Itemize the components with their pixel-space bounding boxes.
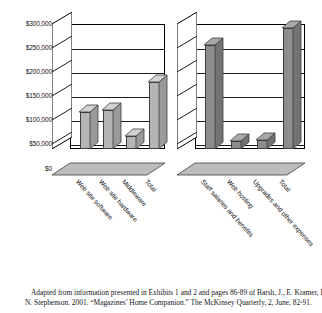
y-tick-100000: $100,000 — [26, 116, 52, 123]
x-axis-labels-left: Web site software Web site hardware Midd… — [70, 176, 180, 281]
depth-wall-right — [177, 12, 197, 162]
y-tick-200000: $200,000 — [26, 68, 52, 75]
bar-3d-faces — [241, 130, 249, 149]
depth-wall-left — [52, 12, 72, 162]
y-tick-300000: $300,000 — [26, 20, 52, 27]
bar-3d-faces — [215, 34, 223, 149]
chart-area: $300,000 $250,000 $200,000 $150,000 $100… — [0, 0, 322, 285]
x-label-total-left: Total — [144, 178, 158, 193]
plot-floor-right — [177, 148, 305, 176]
chart-panel-left — [70, 24, 165, 176]
bar-total-right — [283, 28, 294, 149]
bar-web-hosting — [231, 141, 242, 149]
bars-right — [195, 24, 305, 149]
bar-middleware — [126, 136, 137, 149]
y-tick-0: $0 — [45, 165, 52, 172]
bar-3d-faces — [136, 125, 144, 149]
bar-3d-faces — [113, 99, 121, 149]
bar-staff-salaries-and-benefits — [205, 45, 216, 149]
figure-root: $300,000 $250,000 $200,000 $150,000 $100… — [0, 0, 322, 313]
chart-panel-right — [195, 24, 305, 176]
y-tick-150000: $150,000 — [26, 92, 52, 99]
bar-3d-faces — [159, 71, 167, 149]
bar-3d-faces — [90, 101, 98, 149]
x-axis-labels-right: Staff salaries and benefits Web hosting … — [195, 176, 322, 281]
x-label-staff-salaries-and-benefits: Staff salaries and benefits — [200, 178, 255, 238]
x-label-total-right: Total — [278, 178, 292, 193]
bars-left — [70, 24, 165, 149]
bar-web-site-software — [80, 112, 91, 149]
bar-upgrades-and-other-expenses — [257, 140, 268, 149]
plot-floor-left — [52, 148, 165, 176]
caption-line-1: Adapted from information presented in Ex… — [31, 288, 322, 298]
bar-3d-faces — [267, 129, 275, 149]
y-tick-50000: $50,000 — [29, 140, 52, 147]
x-label-web-hosting: Web hosting — [226, 178, 255, 209]
y-axis-labels: $300,000 $250,000 $200,000 $150,000 $100… — [4, 24, 52, 172]
bar-3d-faces — [293, 17, 301, 149]
figure-caption: Adapted from information presented in Ex… — [0, 288, 322, 313]
y-tick-250000: $250,000 — [26, 44, 52, 51]
caption-line-2: N. Stephenson. 2001. “Magazines’ Home Co… — [25, 298, 322, 308]
bar-total-left — [149, 82, 160, 149]
bar-web-site-hardware — [103, 110, 114, 149]
